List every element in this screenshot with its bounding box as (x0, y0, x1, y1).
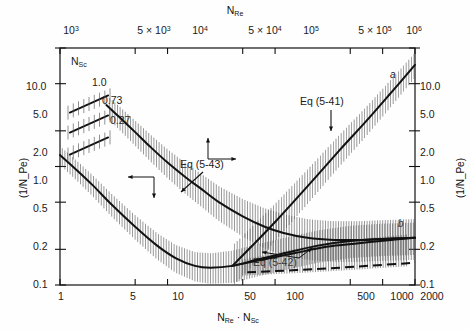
nsc-tick-marks-layer (68, 88, 110, 161)
figure-root: NRe 103 5 × 103 104 5 × 104 105 5 × 105 … (0, 0, 470, 330)
plot-canvas (0, 0, 470, 330)
uncertainty-hatching-layer (62, 54, 414, 285)
